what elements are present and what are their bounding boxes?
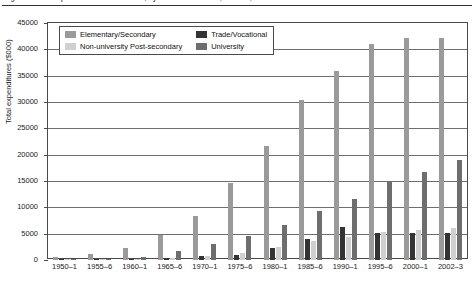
bar <box>299 100 304 260</box>
bar <box>352 199 357 260</box>
bar <box>129 259 134 260</box>
legend-swatch-icon <box>196 43 207 50</box>
bar <box>135 259 140 260</box>
bar <box>94 259 99 260</box>
legend-label: Trade/Vocational <box>211 30 267 39</box>
bar <box>88 254 93 260</box>
x-axis-tick-labels: 1950–11955–61960–11965–61970–11975–61980… <box>47 262 468 278</box>
x-axis-tick-label: 1955–6 <box>87 262 112 271</box>
legend-item[interactable]: Elementary/Secondary <box>65 30 182 39</box>
bar <box>65 259 70 260</box>
bar <box>53 257 58 260</box>
bar <box>305 239 310 260</box>
y-axis-tick-label: 40000 <box>17 44 38 53</box>
bar <box>246 236 251 260</box>
bar <box>170 258 175 260</box>
bar <box>158 235 163 260</box>
bar-group <box>439 23 462 260</box>
x-axis-tick-label: 1995–6 <box>368 262 393 271</box>
bar <box>387 182 392 260</box>
bar <box>176 251 181 260</box>
figure-caption: Figure 1 Total expenditures on education… <box>0 0 476 7</box>
caption-rule <box>2 5 472 6</box>
y-axis-tick-labels: 0500010000150002000025000300003500040000… <box>0 22 44 259</box>
bar-group <box>334 23 357 260</box>
chart-root: Figure 1 Total expenditures on education… <box>0 0 476 290</box>
x-axis-tick-label: 2002–3 <box>438 262 463 271</box>
bar <box>164 258 169 260</box>
bars-layer <box>47 22 468 260</box>
bar-group <box>369 23 392 260</box>
bar <box>282 225 287 260</box>
y-axis-tick-label: 10000 <box>17 202 38 211</box>
bar-group <box>53 23 76 260</box>
bar <box>410 233 415 260</box>
legend-swatch-icon <box>65 43 76 50</box>
bar <box>340 227 345 260</box>
bar <box>457 160 462 260</box>
x-axis-tick-label: 1950–1 <box>52 262 77 271</box>
y-axis-tick-label: 0 <box>34 255 38 264</box>
figure-caption-text: Figure 1 Total expenditures on education… <box>4 0 313 1</box>
bar <box>106 259 111 260</box>
bar-group <box>404 23 427 260</box>
x-axis-tick-label: 1970–1 <box>192 262 217 271</box>
bar <box>234 255 239 260</box>
bar <box>100 259 105 260</box>
legend-item[interactable]: Non-university Post-secondary <box>65 42 182 51</box>
bar-group <box>158 23 181 260</box>
bar <box>375 233 380 260</box>
bar-group <box>264 23 287 260</box>
bar <box>199 256 204 260</box>
bar <box>416 230 421 260</box>
bar <box>451 228 456 260</box>
bar <box>228 183 233 260</box>
y-axis-tick-label: 30000 <box>17 97 38 106</box>
bar <box>270 248 275 260</box>
y-axis-tick-label: 25000 <box>17 123 38 132</box>
y-axis-tick-label: 20000 <box>17 149 38 158</box>
x-axis-tick-label: 1960–1 <box>122 262 147 271</box>
y-axis-tick-label: 45000 <box>17 18 38 27</box>
legend-label: University <box>211 42 244 51</box>
bar <box>276 247 281 260</box>
chart-legend: Elementary/SecondaryTrade/VocationalNon-… <box>59 26 274 55</box>
y-axis-tick-label: 15000 <box>17 176 38 185</box>
legend-label: Elementary/Secondary <box>80 30 156 39</box>
x-axis-tick-label: 2000–1 <box>403 262 428 271</box>
legend-label: Non-university Post-secondary <box>80 42 182 51</box>
bar <box>439 38 444 260</box>
bar <box>264 146 269 260</box>
bar <box>240 253 245 260</box>
bar <box>404 38 409 260</box>
bar-group <box>88 23 111 260</box>
bar-group <box>193 23 216 260</box>
bar-group <box>123 23 146 260</box>
bar <box>71 259 76 260</box>
bar <box>193 216 198 260</box>
bar <box>334 71 339 260</box>
bar-group <box>299 23 322 260</box>
bar <box>381 232 386 260</box>
bar <box>123 248 128 260</box>
y-axis-tick <box>44 260 48 261</box>
bar <box>369 44 374 260</box>
bar <box>211 244 216 260</box>
x-axis-tick-label: 1985–6 <box>298 262 323 271</box>
bar <box>311 241 316 260</box>
x-axis-tick-label: 1980–1 <box>263 262 288 271</box>
x-axis-tick-label: 1990–1 <box>333 262 358 271</box>
bar <box>59 259 64 260</box>
bar <box>346 237 351 260</box>
bar <box>317 211 322 261</box>
y-axis-tick-label: 35000 <box>17 70 38 79</box>
legend-item[interactable]: Trade/Vocational <box>196 30 267 39</box>
bar <box>422 172 427 260</box>
bar-group <box>228 23 251 260</box>
x-axis-tick-label: 1975–6 <box>227 262 252 271</box>
bar <box>141 257 146 260</box>
legend-item[interactable]: University <box>196 42 267 51</box>
y-axis-tick-label: 5000 <box>21 228 38 237</box>
bar <box>445 233 450 260</box>
legend-swatch-icon <box>196 31 207 38</box>
